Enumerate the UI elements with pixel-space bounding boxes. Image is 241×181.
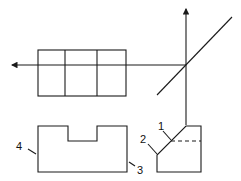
top-view	[38, 50, 126, 96]
leader-1	[163, 131, 171, 140]
diagram-canvas: 1 2 3 4	[0, 0, 241, 181]
side-view	[157, 126, 201, 172]
label-2: 2	[140, 134, 146, 145]
label-4: 4	[16, 141, 22, 152]
label-1: 1	[158, 121, 164, 132]
projection-drawing	[0, 0, 241, 181]
leader-2	[148, 144, 157, 154]
miter-line	[157, 17, 232, 95]
label-3: 3	[137, 165, 143, 176]
leader-4	[28, 149, 36, 154]
leader-3	[129, 162, 135, 166]
front-view	[38, 126, 127, 172]
